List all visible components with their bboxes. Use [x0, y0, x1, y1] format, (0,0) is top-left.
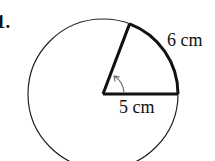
- radius-slanted: [103, 24, 130, 94]
- radius-label: 5 cm: [119, 97, 155, 118]
- sector-diagram: [0, 0, 215, 161]
- arc-length-label: 6 cm: [167, 30, 203, 51]
- figure-canvas: 1. 6 cm 5 cm: [0, 0, 215, 161]
- angle-arc: [114, 76, 124, 93]
